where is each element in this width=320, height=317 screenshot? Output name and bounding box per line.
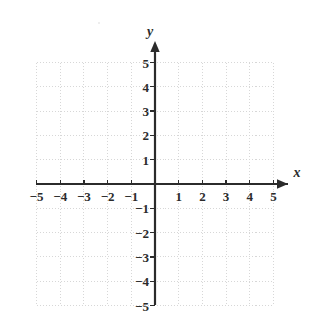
x-tick-label: 2 xyxy=(199,190,206,203)
coordinate-plane-figure: −5−4−3−2−11234554321−1−2−3−4−5 x y xyxy=(0,0,320,317)
x-axis-arrowhead xyxy=(277,179,288,188)
x-tick-label: 1 xyxy=(175,190,182,203)
y-tick-label: 4 xyxy=(143,80,150,93)
y-tick-label: 3 xyxy=(143,105,150,118)
y-axis-arrowhead xyxy=(150,41,159,52)
y-tick-label: −4 xyxy=(135,275,149,288)
y-tick-label: 1 xyxy=(143,153,150,166)
y-axis-label: y xyxy=(147,25,153,39)
x-tick-label: −2 xyxy=(101,190,115,203)
background-speck xyxy=(98,22,100,24)
x-tick-label: 5 xyxy=(270,190,277,203)
y-tick-label: −3 xyxy=(135,250,149,263)
y-tick-label: −5 xyxy=(135,299,149,312)
y-tick-label: 2 xyxy=(143,129,150,142)
x-tick-label: 4 xyxy=(247,190,254,203)
y-tick-label: −1 xyxy=(135,202,149,215)
x-tick-label: −5 xyxy=(30,190,44,203)
x-tick-label: −3 xyxy=(77,190,91,203)
axis-arrowheads xyxy=(150,41,288,189)
x-axis-label: x xyxy=(294,166,301,180)
coordinate-plane-canvas xyxy=(0,0,320,317)
y-tick-label: −2 xyxy=(135,226,149,239)
y-tick-label: 5 xyxy=(143,56,150,69)
x-tick-label: 3 xyxy=(223,190,230,203)
x-tick-label: −4 xyxy=(53,190,67,203)
